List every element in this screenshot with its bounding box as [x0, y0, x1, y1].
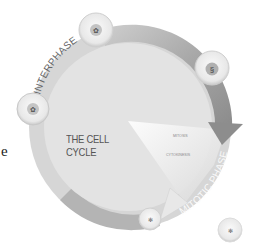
- cell-top-icon: ✿: [79, 13, 113, 47]
- svg-text:✿: ✿: [30, 106, 36, 113]
- cell-cycle-title: THE CELL CYCLE: [66, 133, 109, 159]
- svg-text:✻: ✻: [228, 228, 233, 234]
- cell-bottom-icon: ✻: [139, 208, 161, 230]
- svg-text:✻: ✻: [148, 217, 153, 223]
- cell-left-icon: ✿: [17, 93, 49, 125]
- cytokinesis-label: CYTOKINESIS: [166, 153, 191, 157]
- svg-text:§: §: [210, 65, 214, 74]
- title-line-2: CYCLE: [66, 146, 109, 159]
- daughter-cell-icon: ✻: [218, 218, 242, 242]
- cell-cycle-diagram: INTERPHASE MITOTIC PHASE MITOSIS CYTOKIN…: [0, 0, 253, 246]
- mitosis-label: MITOSIS: [173, 134, 188, 138]
- title-line-1: THE CELL: [66, 133, 109, 146]
- cell-upper-right-icon: §: [195, 51, 229, 85]
- svg-text:✿: ✿: [93, 27, 99, 34]
